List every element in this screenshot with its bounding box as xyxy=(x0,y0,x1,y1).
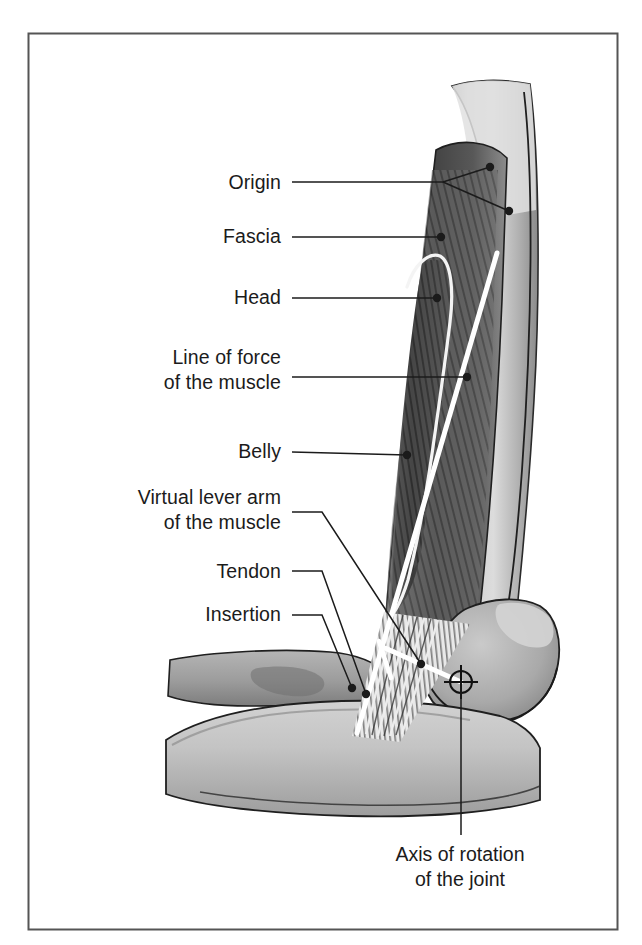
leader-dot-origin xyxy=(486,163,494,171)
label-belly: Belly xyxy=(238,440,281,462)
leader-dot-tendon xyxy=(362,690,370,698)
label-origin: Origin xyxy=(228,171,281,193)
label-axis-of-rotation-line-2: of the joint xyxy=(415,868,506,890)
leader-dot-fascia xyxy=(437,233,445,241)
label-tendon: Tendon xyxy=(216,560,281,582)
radius-bone xyxy=(166,701,540,817)
label-virtual-lever-arm-line-1: Virtual lever arm xyxy=(138,486,281,508)
leader-dot-head xyxy=(433,294,441,302)
leader-dot-origin-2 xyxy=(505,207,513,215)
label-line-of-force-line-1: Line of force xyxy=(172,346,281,368)
label-axis-of-rotation-line-1: Axis of rotation xyxy=(396,843,525,865)
anatomy-figure: OriginFasciaHeadLine of forceof the musc… xyxy=(0,0,642,945)
leader-dot-insertion xyxy=(348,684,356,692)
label-head: Head xyxy=(234,286,281,308)
label-virtual-lever-arm-line-2: of the muscle xyxy=(164,511,281,533)
label-insertion: Insertion xyxy=(205,603,281,625)
leader-dot-line-of-force xyxy=(463,373,471,381)
anatomy-illustration-svg: OriginFasciaHeadLine of forceof the musc… xyxy=(0,0,642,945)
leader-dot-belly xyxy=(403,451,411,459)
label-line-of-force-line-2: of the muscle xyxy=(164,371,281,393)
leader-dot-virtual-lever-arm xyxy=(417,660,425,668)
label-fascia: Fascia xyxy=(223,225,281,247)
